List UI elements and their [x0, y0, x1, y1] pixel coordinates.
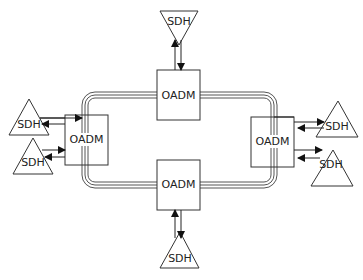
sdh-node-top[interactable]: SDH: [160, 11, 198, 45]
sdh-bottom-label: SDH: [168, 252, 192, 265]
sdh-top-label: SDH: [167, 15, 191, 28]
link-left-lower: [42, 150, 65, 157]
link-left-upper: [40, 118, 82, 124]
sdh-node-left-lower[interactable]: SDH: [13, 138, 53, 174]
sdh-left-upper-label: SDH: [17, 118, 41, 131]
link-right-lower: [294, 150, 322, 158]
sdh-node-right-upper[interactable]: SDH: [316, 101, 358, 137]
oadm-right-label: OADM: [256, 135, 290, 148]
oadm-bottom-label: OADM: [162, 178, 196, 191]
sdh-node-left-upper[interactable]: SDH: [9, 99, 49, 135]
sdh-right-lower-label: SDH: [319, 158, 343, 171]
sdh-left-lower-label: SDH: [21, 156, 45, 169]
sdh-node-bottom[interactable]: SDH: [160, 232, 199, 268]
oadm-top-label: OADM: [162, 89, 196, 102]
oadm-left-label: OADM: [70, 133, 104, 146]
link-right-upper: [274, 117, 324, 128]
oadm-node-right[interactable]: OADM: [251, 117, 294, 167]
sdh-right-upper-label: SDH: [325, 120, 349, 133]
oadm-node-left[interactable]: OADM: [65, 115, 108, 165]
ring-network-diagram: OADM OADM OADM OADM SDH SDH SDH: [0, 0, 363, 280]
link-top: [175, 40, 181, 70]
sdh-node-right-lower[interactable]: SDH: [311, 150, 353, 186]
oadm-node-top[interactable]: OADM: [157, 70, 200, 120]
oadm-node-bottom[interactable]: OADM: [157, 160, 200, 210]
